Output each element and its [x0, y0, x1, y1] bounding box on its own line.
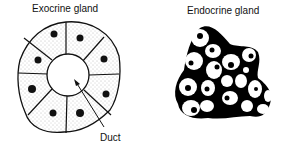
- endocrine-gland: [175, 26, 272, 118]
- exocrine-gland: [18, 22, 120, 133]
- lumen: [47, 54, 89, 96]
- gland-diagram: [0, 0, 285, 152]
